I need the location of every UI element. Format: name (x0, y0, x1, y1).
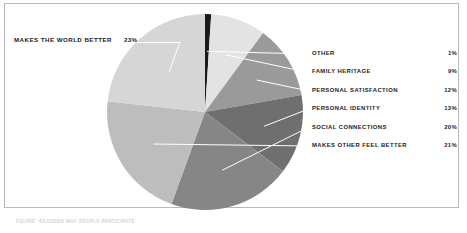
legend-label: PERSONAL IDENTITY (312, 105, 380, 111)
legend-row: OTHER1% (312, 50, 457, 68)
callout-makes-the-world-better: MAKES THE WORLD BETTER 23% (14, 36, 138, 43)
legend-value: 20% (444, 124, 457, 130)
pie-slice (108, 14, 205, 112)
pie-chart-area: MAKES THE WORLD BETTER 23% OTHER1%FAMILY… (0, 0, 467, 233)
callout-leader-line (132, 42, 180, 43)
legend-label: FAMILY HERITAGE (312, 68, 371, 74)
legend-label: PERSONAL SATISFACTION (312, 87, 398, 93)
legend-value: 9% (448, 68, 457, 74)
legend-value: 21% (444, 142, 457, 148)
legend-row: MAKES OTHER FEEL BETTER21% (312, 142, 457, 160)
legend-value: 12% (444, 87, 457, 93)
legend-label: SOCIAL CONNECTIONS (312, 124, 387, 130)
legend-label: MAKES OTHER FEEL BETTER (312, 142, 407, 148)
legend-value: 13% (444, 105, 457, 111)
legend-row: SOCIAL CONNECTIONS20% (312, 124, 457, 142)
legend-value: 1% (448, 50, 457, 56)
legend-row: PERSONAL SATISFACTION12% (312, 87, 457, 105)
callout-label: MAKES THE WORLD BETTER (14, 36, 112, 43)
chart-legend: OTHER1%FAMILY HERITAGE9%PERSONAL SATISFA… (312, 50, 457, 160)
legend-row: PERSONAL IDENTITY13% (312, 105, 457, 123)
pie-slices-group (107, 14, 303, 210)
callout-value: 23% (124, 36, 138, 43)
legend-row: FAMILY HERITAGE9% (312, 68, 457, 86)
chart-page: MAKES THE WORLD BETTER 23% OTHER1%FAMILY… (0, 0, 467, 233)
legend-label: OTHER (312, 50, 335, 56)
figure-caption: FIGURE: REASONS WHY PEOPLE PARTICIPATE (16, 219, 135, 224)
